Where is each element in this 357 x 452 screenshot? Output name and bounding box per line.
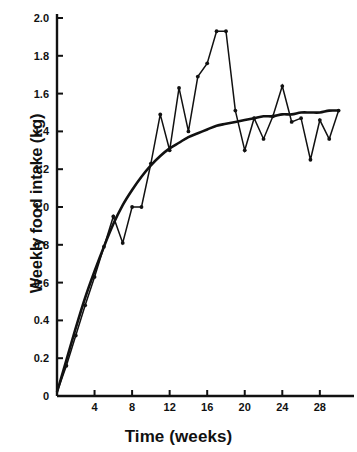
series-2 [57,110,339,392]
y-axis-tick-label: 1.8 [34,50,49,62]
data-point [280,84,284,88]
data-point [158,112,162,116]
data-point [140,205,144,209]
series-1 [57,29,341,392]
data-point [233,109,237,113]
data-series-group [57,29,341,392]
y-axis-title: Weekly food intake (kg) [27,64,46,344]
x-axis-tick-label: 4 [91,401,98,413]
x-axis-tick-label: 20 [239,401,251,413]
x-axis-tick-label: 28 [314,401,326,413]
data-point [309,158,313,162]
data-point [224,29,228,33]
series-line [57,31,339,392]
data-point [187,130,191,134]
x-axis-tick-label: 12 [164,401,176,413]
data-point [327,137,331,141]
x-axis-tick-label: 8 [129,401,135,413]
x-axis-tick-label: 24 [276,401,289,413]
data-point [111,215,115,219]
data-point [196,75,200,79]
plot-area: 00.20.40.60.81.01.21.41.61.82.0 48121620… [0,0,357,452]
y-axis-tick-label: 0 [43,390,49,402]
data-point [318,118,322,122]
chart-figure: Weekly food intake (kg) Time (weeks) 00.… [0,0,357,452]
y-axis-tick-label: 0.2 [34,352,49,364]
data-point [130,205,134,209]
data-point [205,61,209,65]
y-axis-tick-label: 2.0 [34,12,49,24]
data-point [299,116,303,120]
data-point [215,29,219,33]
series-line [57,110,339,392]
data-point [177,86,181,90]
x-axis: 481216202428 [57,390,354,413]
data-point [290,120,294,124]
data-point [121,241,125,245]
data-point [262,137,266,141]
x-axis-title: Time (weeks) [0,427,357,447]
data-point [243,148,247,152]
x-axis-tick-label: 16 [201,401,213,413]
